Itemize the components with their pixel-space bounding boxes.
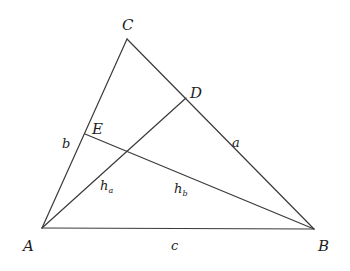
altitude-label-ha: ha <box>100 178 113 195</box>
altitude-ha-main: h <box>100 178 108 193</box>
vertex-label-c: C <box>122 16 134 34</box>
side-b-line <box>42 39 127 228</box>
side-a-line <box>127 39 314 229</box>
point-label-e: E <box>91 120 103 138</box>
point-label-d: D <box>189 84 202 102</box>
vertex-label-b: B <box>317 237 329 255</box>
altitude-hb-line <box>85 134 314 229</box>
altitude-label-hb: hb <box>174 181 188 198</box>
side-label-c: c <box>171 238 179 253</box>
altitude-ha-sub: a <box>108 186 113 195</box>
altitude-ha-line <box>42 98 186 228</box>
altitude-hb-sub: b <box>182 189 187 198</box>
side-c-line <box>42 228 314 229</box>
vertex-label-a: A <box>21 237 34 255</box>
side-label-b: b <box>62 136 70 151</box>
altitude-hb-main: h <box>174 181 182 196</box>
triangle-diagram: C D E A B a b c ha hb <box>0 0 350 271</box>
side-label-a: a <box>232 135 240 150</box>
